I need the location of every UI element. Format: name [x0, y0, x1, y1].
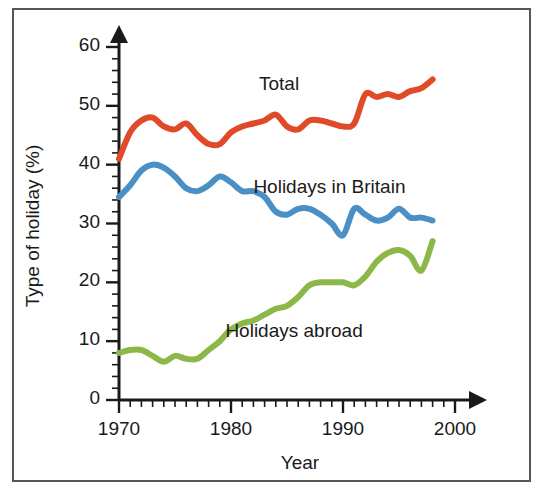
y-tick-label: 50 — [60, 93, 100, 115]
y-tick-label: 0 — [60, 387, 100, 409]
y-axis-ticks — [106, 47, 119, 400]
y-tick-label: 20 — [60, 269, 100, 291]
x-tick-label: 1980 — [196, 418, 266, 440]
y-tick-label: 60 — [60, 34, 100, 56]
x-tick-label: 1970 — [84, 418, 154, 440]
y-tick-label: 40 — [60, 152, 100, 174]
chart-figure: 0102030405060 1970198019902000 TotalHoli… — [0, 0, 545, 494]
x-axis-ticks — [119, 400, 455, 413]
series-annotation-holidays-abroad: Holidays abroad — [225, 320, 362, 342]
y-axis-title: Type of holiday (%) — [22, 121, 44, 331]
series-annotation-holidays-in-britain: Holidays in Britain — [253, 176, 405, 198]
x-tick-label: 1990 — [308, 418, 378, 440]
x-axis-title: Year — [185, 452, 415, 474]
x-tick-label: 2000 — [420, 418, 490, 440]
series-line-holidays-abroad — [119, 241, 433, 362]
series-annotation-total: Total — [259, 73, 299, 95]
y-tick-label: 10 — [60, 328, 100, 350]
y-tick-label: 30 — [60, 211, 100, 233]
